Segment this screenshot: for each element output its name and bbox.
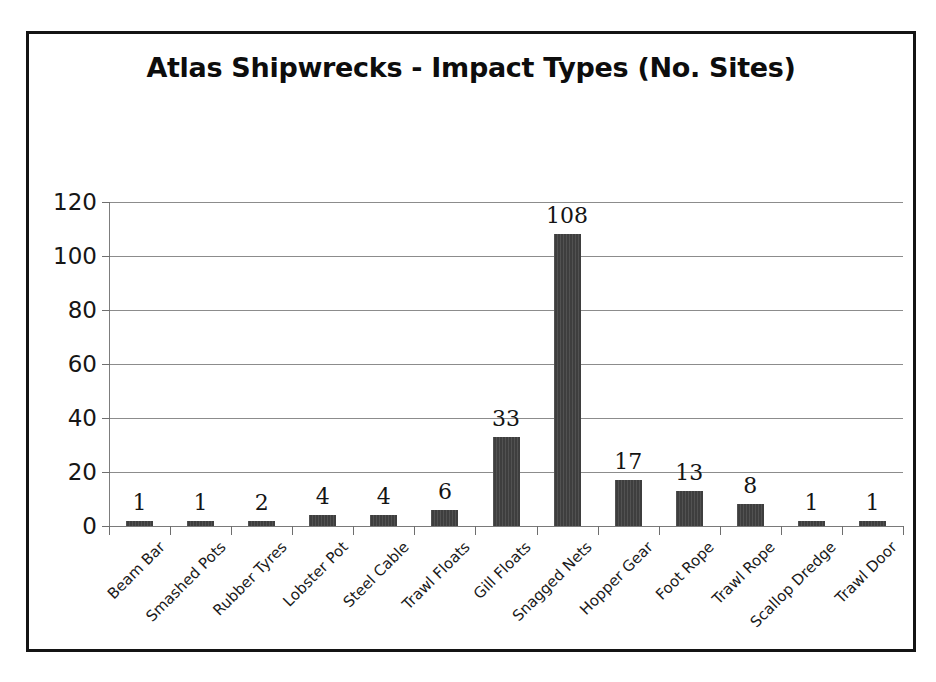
y-tick-label: 80 — [68, 297, 97, 323]
x-tick-mark — [475, 526, 476, 535]
chart-page: Atlas Shipwrecks - Impact Types (No. Sit… — [0, 0, 936, 682]
bar-value-label: 8 — [743, 473, 757, 498]
y-tick-mark — [102, 472, 110, 473]
bar — [370, 515, 397, 526]
page-title: Atlas Shipwrecks - Impact Types (No. Sit… — [29, 52, 913, 83]
gridline — [109, 364, 903, 365]
bar-value-label: 4 — [316, 484, 330, 509]
bar-value-label: 1 — [865, 490, 879, 515]
bar-value-label: 1 — [194, 490, 208, 515]
x-tick-mark — [720, 526, 721, 535]
x-tick-mark — [842, 526, 843, 535]
x-tick-mark — [292, 526, 293, 535]
x-tick-label: Foot Rope — [652, 538, 718, 604]
y-tick-label: 0 — [82, 513, 97, 539]
y-tick-mark — [102, 364, 110, 365]
x-tick-mark — [109, 526, 110, 535]
x-tick-label: Trawl Door — [832, 538, 901, 607]
x-tick-label: Gill Floats — [470, 538, 535, 603]
y-tick-mark — [102, 418, 110, 419]
bar-value-label: 4 — [377, 484, 391, 509]
x-tick-label: Beam Bar — [103, 538, 168, 603]
y-tick-label: 100 — [53, 243, 97, 269]
bar-value-label: 33 — [492, 406, 520, 431]
x-tick-mark — [414, 526, 415, 535]
bar — [126, 521, 153, 526]
y-tick-label: 20 — [68, 459, 97, 485]
bar — [248, 521, 275, 526]
bar-value-label: 6 — [438, 479, 452, 504]
x-tick-mark — [231, 526, 232, 535]
bar — [493, 437, 520, 526]
y-tick-label: 120 — [53, 189, 97, 215]
gridline — [109, 310, 903, 311]
gridline — [109, 256, 903, 257]
x-tick-mark — [170, 526, 171, 535]
bar — [798, 521, 825, 526]
bar-value-label: 17 — [614, 449, 642, 474]
gridline — [109, 202, 903, 203]
bar-value-label: 2 — [255, 490, 269, 515]
x-tick-mark — [537, 526, 538, 535]
bar-value-label: 1 — [133, 490, 147, 515]
x-tick-mark — [781, 526, 782, 535]
y-tick-label: 60 — [68, 351, 97, 377]
y-tick-mark — [102, 310, 110, 311]
bar — [737, 504, 764, 526]
bar-value-label: 108 — [546, 203, 588, 228]
bar — [309, 515, 336, 526]
bar — [554, 234, 581, 526]
bar — [187, 521, 214, 526]
y-tick-mark — [102, 202, 110, 203]
x-tick-mark — [659, 526, 660, 535]
x-tick-mark — [353, 526, 354, 535]
y-tick-label: 40 — [68, 405, 97, 431]
gridline — [109, 526, 903, 527]
bar — [615, 480, 642, 526]
plot-area: 020406080100120 112446331081713811 Beam … — [109, 202, 903, 526]
bar — [859, 521, 886, 526]
bar — [676, 491, 703, 526]
bar-value-label: 1 — [804, 490, 818, 515]
bar-value-label: 13 — [675, 460, 703, 485]
y-tick-mark — [102, 256, 110, 257]
chart-frame: Atlas Shipwrecks - Impact Types (No. Sit… — [26, 31, 916, 652]
x-tick-mark — [598, 526, 599, 535]
bar — [431, 510, 458, 526]
x-tick-mark — [903, 526, 904, 535]
